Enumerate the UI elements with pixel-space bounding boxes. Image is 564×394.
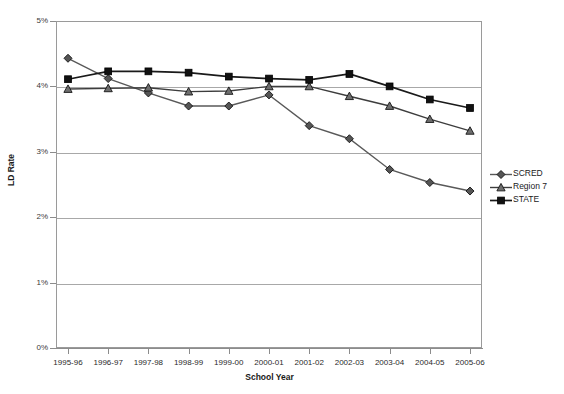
legend-label: Region 7 — [513, 180, 547, 193]
gridline — [57, 218, 481, 219]
y-axis-tick-label-wrap: 4% — [0, 81, 48, 90]
legend-label: SCRED — [513, 167, 543, 180]
y-axis-tick-label: 2% — [2, 212, 48, 221]
x-axis-tick — [470, 349, 471, 354]
chart-container: LD Rate 0%1%2%3%4%5% 1995-961996-971997-… — [0, 0, 564, 394]
square-marker-icon — [489, 193, 513, 206]
legend-label: STATE — [513, 193, 539, 206]
y-axis-tick-label: 1% — [2, 278, 48, 287]
x-axis-tick — [229, 349, 230, 354]
gridline — [57, 284, 481, 285]
gridline — [57, 153, 481, 154]
x-axis-tick — [269, 349, 270, 354]
x-axis-tick — [309, 349, 310, 354]
plot-area — [56, 21, 482, 348]
y-axis-tick-label: 3% — [2, 147, 48, 156]
chart-legend: SCREDRegion 7STATE — [489, 167, 561, 206]
x-axis-tick — [430, 349, 431, 354]
y-axis-tick-label-wrap: 3% — [0, 147, 48, 156]
legend-item-scred[interactable]: SCRED — [489, 167, 561, 180]
x-axis-tick-label: 2005-06 — [440, 358, 500, 367]
y-axis-tick-label-wrap: 5% — [0, 16, 48, 25]
x-axis-tick — [68, 349, 69, 354]
x-axis-tick — [148, 349, 149, 354]
x-axis-title: School Year — [56, 372, 483, 382]
diamond-marker-icon — [489, 167, 513, 180]
x-axis-tick — [349, 349, 350, 354]
y-axis-tick-label-wrap: 2% — [0, 212, 48, 221]
legend-item-state[interactable]: STATE — [489, 193, 561, 206]
y-axis-title: LD Rate — [6, 135, 16, 205]
y-axis-tick-label-wrap: 1% — [0, 278, 48, 287]
x-axis-tick — [108, 349, 109, 354]
y-axis-tick-label: 0% — [2, 343, 48, 352]
y-axis-tick-label: 5% — [2, 16, 48, 25]
gridline — [57, 87, 481, 88]
x-axis-tick — [390, 349, 391, 354]
triangle-marker-icon — [489, 180, 513, 193]
x-axis-tick — [189, 349, 190, 354]
y-axis-tick-label-wrap: 0% — [0, 343, 48, 352]
legend-item-region-7[interactable]: Region 7 — [489, 180, 561, 193]
y-axis-tick-label: 4% — [2, 81, 48, 90]
